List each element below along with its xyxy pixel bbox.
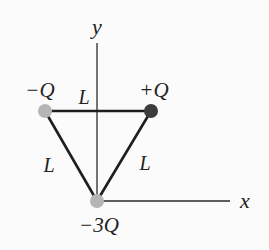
charge-positive-q [144, 104, 158, 118]
charge-positive-q-label: +Q [139, 78, 168, 102]
side-top-label: L [77, 86, 89, 108]
charge-negative-q [38, 104, 52, 118]
charge-negative-3q-label: −3Q [79, 213, 119, 237]
side-right-label: L [138, 152, 150, 174]
charge-triangle-diagram: y x L L L −Q +Q −3Q [0, 0, 269, 250]
charge-negative-3q [90, 194, 104, 208]
charge-negative-q-label: −Q [25, 78, 54, 102]
y-axis-label: y [90, 14, 102, 39]
x-axis-label: x [239, 188, 250, 213]
side-left-label: L [42, 154, 54, 176]
